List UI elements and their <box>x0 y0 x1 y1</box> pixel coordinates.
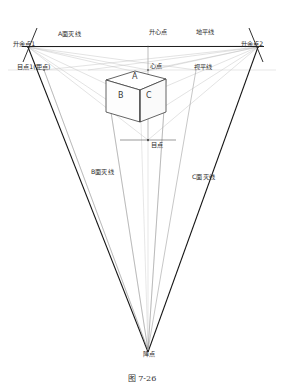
cube-face-label-b: B <box>118 92 124 100</box>
figure-caption: 图 7-26 <box>0 372 284 383</box>
marker-center-point <box>147 69 149 71</box>
label-eye-point: 目点 <box>151 142 163 148</box>
marker-rising-center <box>147 46 149 48</box>
label-rising-residual-point-2: 升余点2 <box>241 41 263 47</box>
perspective-diagram-svg <box>0 0 284 391</box>
label-c-face-vanishing-line: C面灭线 <box>192 174 215 180</box>
cube-face-label-a: A <box>132 73 137 81</box>
marker-eye-point <box>147 139 149 141</box>
label-eye-level-line: 视平线 <box>194 64 212 70</box>
label-horizon-line: 地平线 <box>196 29 214 35</box>
label-eye-point-1: 目点1(距点) <box>17 64 50 70</box>
label-center-point: 心点 <box>150 63 162 69</box>
label-b-face-vanishing-line: B面灭线 <box>91 169 114 175</box>
label-rising-residual-point-1: 升余点1 <box>13 41 35 47</box>
label-a-face-vanishing-line: A面灭线 <box>58 31 81 37</box>
label-rising-center-point: 升心点 <box>149 29 167 35</box>
label-descending-point: 降点 <box>143 351 155 357</box>
cube-face-label-c: C <box>146 92 152 100</box>
perspective-figure: A面灭线 升心点 地平线 升余点1 升余点2 目点1(距点) 心点 视平线 目点… <box>0 0 284 391</box>
